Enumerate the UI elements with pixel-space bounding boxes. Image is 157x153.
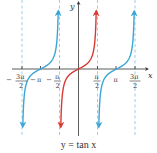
tick-label-pi: π [114, 76, 119, 84]
tick-label-pi-2-num: π [95, 73, 100, 81]
tick-label-pi-2-den: 2 [95, 82, 99, 90]
tick-label-neg-pi-2-sign: − [46, 76, 52, 84]
chart-caption: y = tan x [0, 139, 157, 150]
tick-label-neg-pi-sign: − [30, 76, 36, 84]
tick-label-neg-3pi-2-sign: − [6, 76, 12, 84]
tick-label-3pi-2-num: 3π [130, 73, 139, 81]
x-axis-label: x [148, 71, 153, 80]
tick-label-neg-3pi-2-num: 3π [16, 73, 25, 81]
tick-label-neg-pi: π [37, 76, 42, 84]
x-tick-labels: − 3π 2 − π − π 2 π 2 π 3π 2 [6, 73, 141, 90]
tick-label-neg-3pi-2-den: 2 [19, 82, 23, 90]
axes [12, 3, 147, 136]
tick-label-neg-pi-2-den: 2 [56, 82, 60, 90]
y-axis-label: y [69, 2, 75, 11]
tick-label-3pi-2-den: 2 [133, 82, 137, 90]
tick-label-neg-pi-2-num: π [55, 73, 60, 81]
tan-graph: y x − 3π 2 − π − π 2 π 2 π 3π 2 [0, 0, 157, 153]
